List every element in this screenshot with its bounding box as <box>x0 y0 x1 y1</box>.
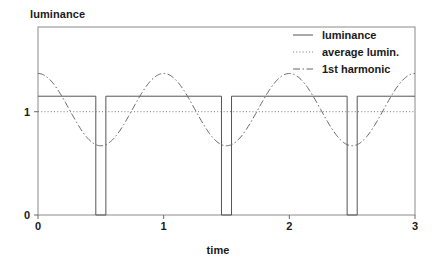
x-tick-label: 3 <box>412 220 418 232</box>
legend-label: 1st harmonic <box>322 63 390 75</box>
x-tick-label: 2 <box>286 220 292 232</box>
chart-legend: luminanceaverage lumin.1st harmonic <box>292 28 418 76</box>
series-path <box>38 96 415 215</box>
legend-item: average lumin. <box>292 45 418 59</box>
legend-label: average lumin. <box>322 46 399 58</box>
legend-line-sample-icon <box>292 47 314 57</box>
legend-item: 1st harmonic <box>292 62 418 76</box>
chart-figure: luminance time 0123 01 luminanceaverage … <box>0 0 436 271</box>
y-tick-label: 0 <box>12 209 30 221</box>
y-tick-label: 1 <box>12 106 30 118</box>
series-path <box>38 73 415 145</box>
x-tick-label: 1 <box>161 220 167 232</box>
x-tick-label: 0 <box>35 220 41 232</box>
legend-item: luminance <box>292 28 418 42</box>
legend-line-sample-icon <box>292 64 314 74</box>
legend-label: luminance <box>322 29 376 41</box>
series-lines <box>38 73 415 215</box>
legend-line-sample-icon <box>292 30 314 40</box>
axis-ticks <box>34 112 415 219</box>
